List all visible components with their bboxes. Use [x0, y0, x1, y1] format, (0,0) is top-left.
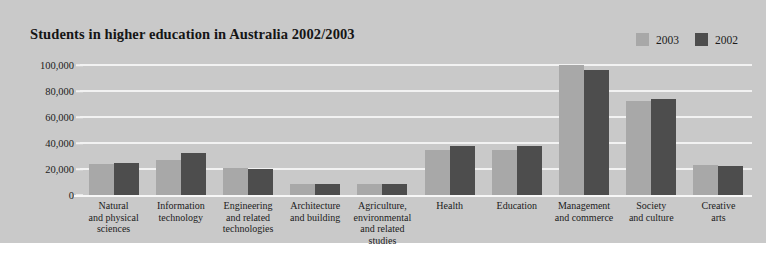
x-axis-label: Managementand commerce: [550, 200, 617, 246]
x-axis-label: Societyand culture: [618, 200, 685, 246]
x-axis-label: Naturaland physicalsciences: [80, 200, 147, 246]
bar-2003: [492, 150, 517, 196]
bar-2002: [651, 99, 676, 195]
x-axis-label: Architectureand building: [282, 200, 349, 246]
bar-group: [282, 65, 349, 195]
bar-group: [618, 65, 685, 195]
bar-group: [483, 65, 550, 195]
y-axis: 020,00040,00060,00080,000100,000: [12, 65, 74, 195]
bar-group: [349, 65, 416, 195]
bar-2002: [584, 70, 609, 195]
bar-group: [147, 65, 214, 195]
bar-2002: [450, 146, 475, 195]
x-axis-label: Agriculture,environmentaland relatedstud…: [349, 200, 416, 246]
bar-groups: [80, 65, 752, 195]
bar-2002: [181, 153, 206, 195]
bar-2003: [626, 101, 651, 195]
x-axis-label: Education: [483, 200, 550, 246]
bar-2003: [223, 168, 248, 195]
y-axis-tick-label: 100,000: [14, 60, 74, 71]
bar-2003: [425, 150, 450, 196]
bar-group: [416, 65, 483, 195]
chart-panel: Students in higher education in Australi…: [8, 8, 758, 238]
x-axis-label: Creativearts: [685, 200, 752, 246]
bar-2003: [559, 65, 584, 195]
x-axis-label: Informationtechnology: [147, 200, 214, 246]
bar-group: [550, 65, 617, 195]
bar-2002: [248, 169, 273, 195]
plot-area: 020,00040,00060,00080,000100,000 Natural…: [8, 8, 766, 251]
bar-2002: [517, 146, 542, 195]
bar-2003: [693, 165, 718, 195]
y-axis-tick-label: 60,000: [14, 112, 74, 123]
y-axis-tick-label: 20,000: [14, 164, 74, 175]
bar-2003: [89, 164, 114, 195]
bar-2003: [357, 184, 382, 195]
bar-2002: [382, 184, 407, 195]
bar-2003: [290, 184, 315, 195]
bar-2002: [315, 184, 340, 195]
bar-group: [685, 65, 752, 195]
x-axis-label: Health: [416, 200, 483, 246]
bar-2002: [114, 163, 139, 195]
x-axis-label: Engineeringand relatedtechnologies: [214, 200, 281, 246]
x-axis-labels: Naturaland physicalsciencesInformationte…: [80, 200, 752, 246]
bar-group: [214, 65, 281, 195]
bar-2002: [718, 166, 743, 195]
y-axis-tick-label: 80,000: [14, 86, 74, 97]
y-axis-tick-label: 40,000: [14, 138, 74, 149]
bar-2003: [156, 160, 181, 195]
y-axis-tick-label: 0: [14, 190, 74, 201]
chart-figure: Students in higher education in Australi…: [0, 0, 766, 243]
bar-group: [80, 65, 147, 195]
